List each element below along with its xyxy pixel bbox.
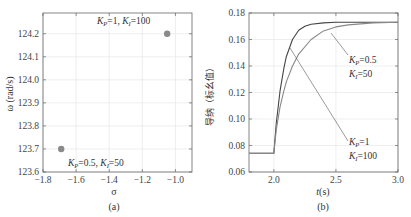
panel-caption: (b): [317, 201, 329, 213]
y-tick-label: 0.10: [228, 114, 245, 124]
data-points: [58, 31, 170, 153]
panel-caption: (a): [108, 201, 119, 213]
series-line: [249, 22, 398, 153]
y-tick-label: 0.08: [228, 141, 245, 151]
y-tick-label: 0.06: [228, 167, 245, 177]
x-axis-label: σ: [111, 186, 117, 197]
y-tick-label: 0.18: [228, 8, 245, 18]
y-axis-label: ω (rad/s): [4, 76, 16, 111]
y-tick-label: 0.12: [228, 88, 245, 98]
y-tick-label: 123.9: [18, 98, 40, 108]
x-axis-label: t(s): [316, 186, 329, 198]
grid-lines: [249, 13, 398, 172]
x-tick-label: −1.6: [67, 175, 84, 185]
annotation-kp1: KP=1: [348, 137, 370, 148]
x-tick-label: 3.0: [392, 175, 404, 185]
annotation-kp05-ki50: KP=0.5, KI=50: [67, 158, 124, 169]
annotation-kp05: KP=0.5: [348, 55, 377, 66]
y-axis-label: 导纳（标幺值）: [204, 63, 215, 126]
x-tick-label: 2.5: [330, 175, 342, 185]
plot-frame: [43, 13, 192, 172]
series-line: [249, 22, 398, 153]
scatter-point: [58, 146, 64, 152]
x-tick-label: −1.0: [167, 175, 184, 185]
y-tick-label: 124.1: [18, 52, 40, 62]
leader-line-kp05: [331, 33, 348, 55]
leader-line-kp1: [290, 48, 348, 141]
y-tick-label: 124.0: [18, 75, 40, 85]
x-tick-label: 2.0: [268, 175, 280, 185]
axis-ticks: 2.02.53.00.060.080.100.120.140.160.18: [228, 8, 404, 185]
annotation-ki50: KI=50: [348, 69, 373, 80]
x-tick-label: −1.4: [101, 175, 118, 185]
y-tick-label: 0.16: [228, 35, 245, 45]
y-tick-label: 0.14: [228, 61, 245, 71]
figure: −1.8−1.6−1.4−1.2−1.0123.6123.7123.8123.9…: [0, 0, 411, 217]
panel-a-scatter: −1.8−1.6−1.4−1.2−1.0123.6123.7123.8123.9…: [4, 13, 192, 213]
grid-lines: [43, 13, 192, 172]
y-tick-label: 124.2: [18, 29, 40, 39]
y-tick-label: 123.8: [18, 121, 40, 131]
panel-b-line: 2.02.53.00.060.080.100.120.140.160.18 KP…: [204, 8, 404, 213]
y-tick-label: 123.7: [18, 144, 40, 154]
scatter-point: [164, 31, 170, 37]
y-tick-label: 123.6: [18, 167, 40, 177]
annotation-kp1-ki100: KP=1, KI=100: [96, 16, 151, 27]
data-lines: [249, 22, 398, 153]
x-tick-label: −1.2: [134, 175, 151, 185]
annotation-ki100: KI=100: [348, 151, 377, 162]
